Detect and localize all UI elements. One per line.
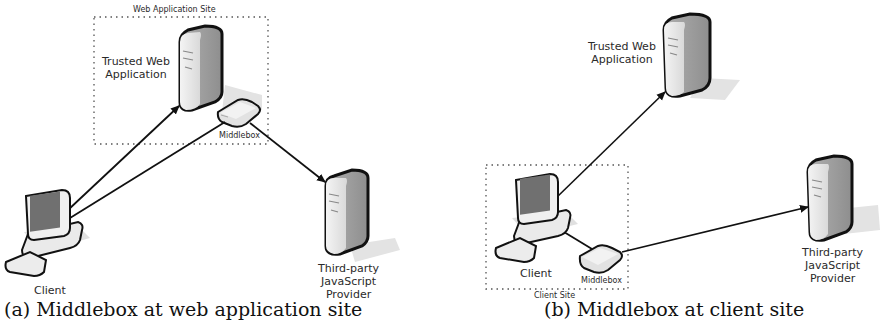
- trusted-app-label: Trusted Web Application: [102, 55, 170, 81]
- provider-label: Third-party JavaScript Provider: [318, 262, 379, 301]
- provider-server-icon: [808, 156, 852, 240]
- trusted-app-label: Trusted Web Application: [588, 40, 656, 66]
- caption-a: (a) Middlebox at web application site: [4, 298, 362, 320]
- middlebox-label: Middlebox: [219, 131, 260, 141]
- web-app-site-label: Web Application Site: [133, 5, 216, 15]
- middlebox-to-provider-connection: [622, 207, 808, 252]
- client-label: Client: [520, 267, 552, 280]
- client-computer-icon: [6, 190, 91, 276]
- middlebox-icon: [580, 245, 622, 272]
- provider-label: Third-party JavaScript Provider: [802, 246, 863, 285]
- middlebox-to-provider-connection: [250, 123, 325, 182]
- client-to-server-connection: [556, 92, 665, 198]
- middlebox-label: Middlebox: [581, 276, 622, 286]
- client-label: Client: [34, 284, 66, 297]
- caption-b: (b) Middlebox at client site: [544, 298, 804, 320]
- client-to-server-connection: [68, 106, 179, 210]
- panel-a: Web Application Site Trusted Web Applica…: [0, 0, 440, 320]
- client-to-middlebox-connection: [564, 232, 592, 249]
- panel-b: Trusted Web Application Client Middlebox…: [440, 0, 881, 320]
- provider-server-icon: [326, 170, 368, 254]
- trusted-server-icon: [180, 26, 222, 110]
- trusted-server-icon: [664, 14, 710, 96]
- client-computer-icon: [496, 174, 579, 262]
